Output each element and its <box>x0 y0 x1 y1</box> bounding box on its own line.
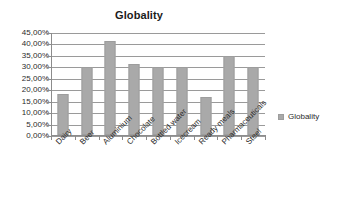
y-axis: 0,00%5,00%10,00%15,00%20,00%25,00%30,00%… <box>0 33 49 136</box>
y-axis-tick-label: 35,00% <box>3 52 49 60</box>
y-axis-tick-label: 20,00% <box>3 86 49 94</box>
y-axis-tick-label: 10,00% <box>3 109 49 117</box>
y-axis-tick-label: 40,00% <box>3 40 49 48</box>
y-axis-tick-label: 5,00% <box>3 121 49 129</box>
chart-legend: Globality <box>278 112 319 121</box>
chart-title: Globality <box>0 9 278 21</box>
x-axis-labels: DairyBeerAluminiumChocolateBottled water… <box>0 140 280 206</box>
plot-area <box>51 33 265 136</box>
y-axis-tick-label: 30,00% <box>3 63 49 71</box>
bar-slot <box>51 33 75 135</box>
bar-slot <box>99 33 123 135</box>
y-axis-tick-label: 15,00% <box>3 98 49 106</box>
bar[interactable] <box>248 67 259 135</box>
bar-slot <box>75 33 99 135</box>
bar-series-globality <box>51 33 265 136</box>
bar[interactable] <box>152 67 163 135</box>
bar[interactable] <box>176 67 187 135</box>
legend-label-globality: Globality <box>288 112 319 121</box>
y-axis-tick-label: 45,00% <box>3 29 49 37</box>
bar[interactable] <box>105 41 116 135</box>
globality-bar-chart: Globality 0,00%5,00%10,00%15,00%20,00%25… <box>0 0 338 208</box>
bar[interactable] <box>81 67 92 135</box>
y-axis-tick-label: 0,00% <box>3 132 49 140</box>
y-axis-tick-label: 25,00% <box>3 75 49 83</box>
legend-swatch-globality <box>278 114 284 120</box>
bar[interactable] <box>129 64 140 135</box>
